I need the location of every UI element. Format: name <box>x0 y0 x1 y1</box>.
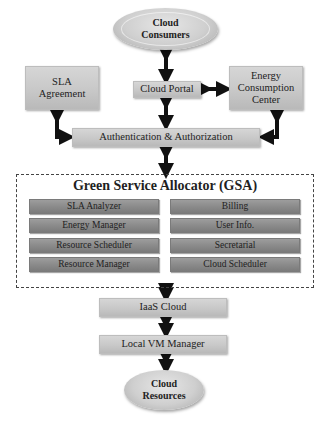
gsa-module-label: Resource Manager <box>58 259 129 270</box>
cloud-portal-node: Cloud Portal <box>133 81 201 98</box>
sla-agreement-node: SLA Agreement <box>25 66 99 110</box>
gsa-module-label: User Info. <box>216 220 255 231</box>
arrow-sla-auth <box>57 116 67 137</box>
gsa-module-energy-manager: Energy Manager <box>29 218 159 233</box>
gsa-module-label: Cloud Scheduler <box>203 259 267 270</box>
cloud-portal-label: Cloud Portal <box>140 83 193 95</box>
gsa-module-billing: Billing <box>170 199 300 214</box>
sla-agreement-label: SLA Agreement <box>34 76 90 100</box>
iaas-cloud-node: IaaS Cloud <box>99 298 227 317</box>
gsa-module-cloud-scheduler: Cloud Scheduler <box>170 257 300 272</box>
arrow-energy-auth <box>266 116 277 137</box>
gsa-title: Green Service Allocator (GSA) <box>16 178 314 194</box>
cloud-resources-label: Cloud Resources <box>134 378 194 403</box>
gsa-module-label: Energy Manager <box>62 220 125 231</box>
gsa-module-label: Resource Scheduler <box>56 240 132 251</box>
gsa-module-resource-scheduler: Resource Scheduler <box>29 238 159 253</box>
energy-consumption-center-node: Energy Consumption Center <box>229 66 303 110</box>
gsa-module-resource-manager: Resource Manager <box>29 257 159 272</box>
authentication-authorization-label: Authentication & Authorization <box>99 131 233 143</box>
gsa-module-sla-analyzer: SLA Analyzer <box>29 199 159 214</box>
local-vm-manager-label: Local VM Manager <box>121 338 204 350</box>
authentication-authorization-node: Authentication & Authorization <box>72 128 260 147</box>
cloud-resources-node: Cloud Resources <box>124 370 204 410</box>
iaas-cloud-label: IaaS Cloud <box>140 301 187 313</box>
cloud-consumers-node: Cloud Consumers <box>113 8 218 50</box>
gsa-module-label: Billing <box>222 201 248 212</box>
gsa-module-label: Secretarial <box>215 240 256 251</box>
gsa-module-secretarial: Secretarial <box>170 238 300 253</box>
gsa-module-label: SLA Analyzer <box>67 201 121 212</box>
cloud-consumers-label: Cloud Consumers <box>136 17 196 42</box>
energy-consumption-center-label: Energy Consumption Center <box>233 70 299 106</box>
local-vm-manager-node: Local VM Manager <box>99 335 227 354</box>
gsa-module-user-info: User Info. <box>170 218 300 233</box>
